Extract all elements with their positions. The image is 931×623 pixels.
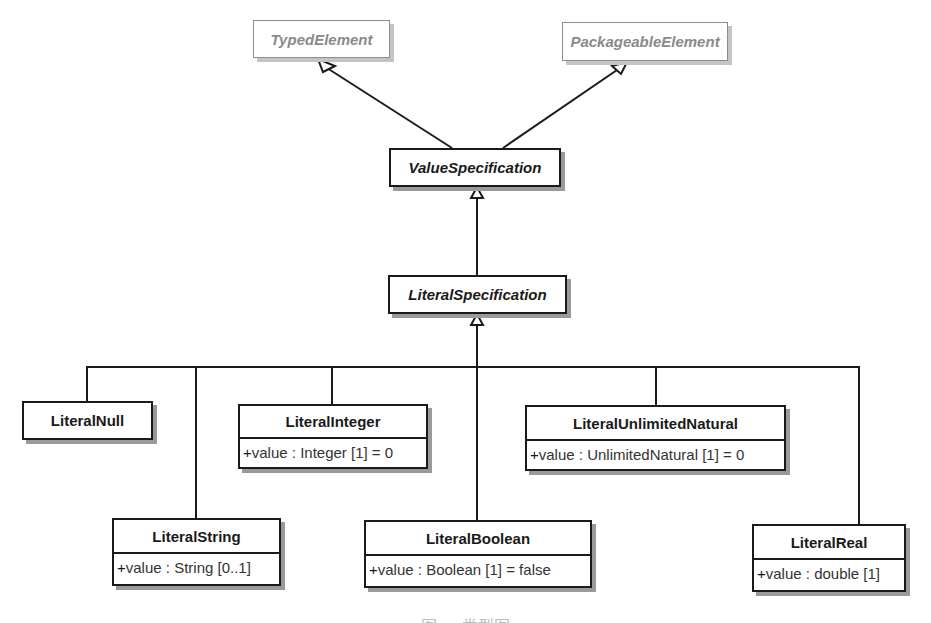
class-literal-integer[interactable]: LiteralInteger +value : Integer [1] = 0 bbox=[238, 404, 428, 469]
attribute-compartment: +value : Integer [1] = 0 bbox=[240, 437, 426, 467]
class-value-specification[interactable]: ValueSpecification bbox=[389, 148, 561, 187]
class-literal-boolean[interactable]: LiteralBoolean +value : Boolean [1] = fa… bbox=[364, 520, 592, 588]
class-name: PackageableElement bbox=[563, 23, 727, 60]
visibility-marker: + bbox=[757, 565, 766, 582]
figure-caption: 图 … 类型图 bbox=[0, 612, 931, 623]
class-name: ValueSpecification bbox=[391, 150, 559, 185]
class-literal-string[interactable]: LiteralString +value : String [0..1] bbox=[112, 518, 281, 586]
class-literal-real[interactable]: LiteralReal +value : double [1] bbox=[752, 524, 906, 592]
class-name: LiteralString bbox=[114, 520, 279, 552]
attribute-compartment: +value : double [1] bbox=[754, 558, 904, 588]
visibility-marker: + bbox=[530, 446, 539, 463]
class-name: LiteralNull bbox=[24, 403, 151, 438]
visibility-marker: + bbox=[117, 559, 126, 576]
attribute-text: value : Integer [1] = 0 bbox=[252, 444, 393, 461]
attribute-text: value : String [0..1] bbox=[126, 559, 251, 576]
attribute-text: value : Boolean [1] = false bbox=[378, 561, 551, 578]
class-packageable-element[interactable]: PackageableElement bbox=[562, 22, 728, 61]
class-typed-element[interactable]: TypedElement bbox=[253, 20, 390, 58]
visibility-marker: + bbox=[243, 444, 252, 461]
uml-class-diagram: TypedElement PackageableElement ValueSpe… bbox=[0, 0, 931, 623]
attribute-compartment: +value : Boolean [1] = false bbox=[366, 554, 590, 584]
class-name: LiteralInteger bbox=[240, 406, 426, 437]
class-name: TypedElement bbox=[254, 21, 389, 57]
generalization-arrowhead-icon bbox=[471, 314, 483, 325]
class-name: LiteralBoolean bbox=[366, 522, 590, 554]
class-literal-null[interactable]: LiteralNull bbox=[22, 401, 153, 440]
class-name: LiteralSpecification bbox=[390, 277, 565, 312]
attribute-text: value : UnlimitedNatural [1] = 0 bbox=[539, 446, 745, 463]
attribute-compartment: +value : String [0..1] bbox=[114, 552, 279, 582]
class-name: LiteralUnlimitedNatural bbox=[527, 407, 784, 439]
generalization-line bbox=[503, 70, 617, 148]
generalization-arrowhead-icon bbox=[471, 187, 483, 198]
generalization-line bbox=[327, 68, 452, 148]
visibility-marker: + bbox=[369, 561, 378, 578]
attribute-text: value : double [1] bbox=[766, 565, 880, 582]
class-name: LiteralReal bbox=[754, 526, 904, 558]
generalization-arrowhead-icon bbox=[318, 59, 335, 72]
attribute-compartment: +value : UnlimitedNatural [1] = 0 bbox=[527, 439, 784, 469]
class-literal-unlimited-natural[interactable]: LiteralUnlimitedNatural +value : Unlimit… bbox=[525, 405, 786, 471]
class-literal-specification[interactable]: LiteralSpecification bbox=[388, 275, 567, 314]
